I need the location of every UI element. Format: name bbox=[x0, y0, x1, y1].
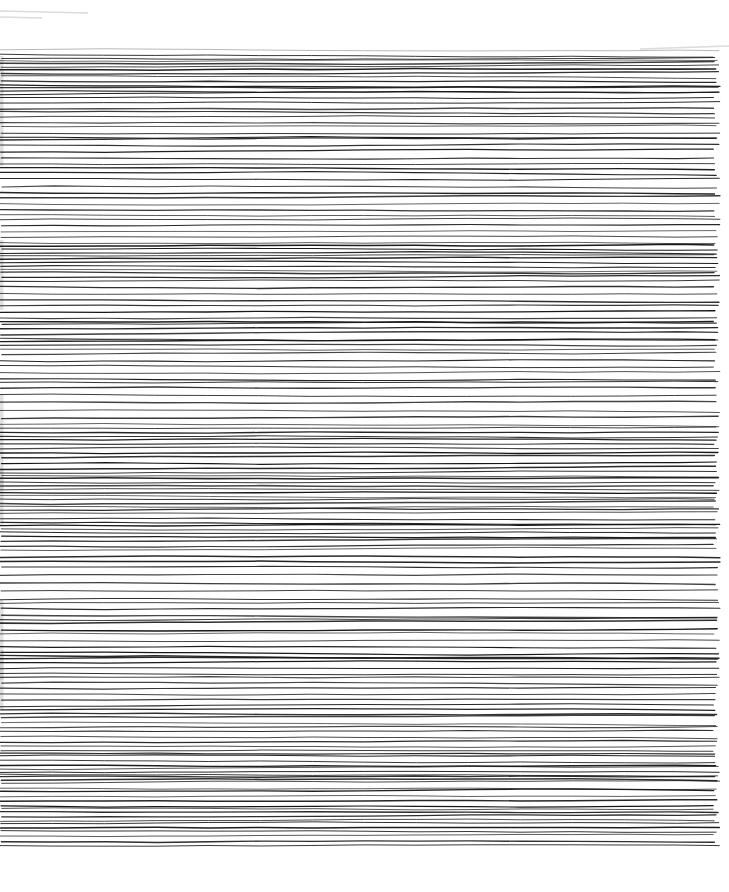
ink-line bbox=[0, 499, 714, 500]
ink-line bbox=[1, 539, 716, 542]
ink-line bbox=[0, 677, 719, 678]
ink-line bbox=[1, 819, 715, 821]
ink-line bbox=[1, 76, 715, 79]
ink-line bbox=[0, 108, 714, 110]
ink-line bbox=[1, 518, 715, 520]
ink-line bbox=[2, 815, 716, 817]
ink-line bbox=[0, 97, 714, 98]
ink-line bbox=[1, 387, 716, 388]
ink-line bbox=[0, 242, 715, 243]
ink-line bbox=[1, 236, 717, 238]
ink-line bbox=[0, 492, 716, 493]
ink-line bbox=[0, 532, 715, 534]
ink-line bbox=[0, 60, 717, 62]
ink-line bbox=[2, 276, 720, 278]
ink-line bbox=[1, 760, 715, 763]
ink-line bbox=[0, 845, 719, 846]
ink-line bbox=[0, 482, 715, 483]
ink-line bbox=[0, 432, 718, 433]
ink-line bbox=[0, 800, 717, 802]
ink-line bbox=[2, 566, 718, 568]
ink-line bbox=[0, 427, 716, 429]
ink-line bbox=[0, 789, 713, 792]
ink-line bbox=[0, 704, 714, 707]
ink-line bbox=[0, 178, 719, 180]
ink-line bbox=[0, 261, 718, 263]
ink-line bbox=[2, 248, 717, 250]
ink-line bbox=[0, 360, 715, 362]
scan-artifact-streak bbox=[0, 17, 42, 18]
ink-line bbox=[0, 410, 719, 413]
ink-line bbox=[0, 556, 720, 558]
ink-line bbox=[0, 478, 718, 479]
ink-line bbox=[0, 447, 718, 449]
ink-line bbox=[1, 806, 713, 807]
ink-line bbox=[0, 740, 717, 742]
ink-line bbox=[0, 471, 716, 473]
ink-line bbox=[1, 495, 716, 497]
ink-line bbox=[1, 841, 714, 843]
ink-line bbox=[0, 54, 713, 57]
ink-line bbox=[0, 693, 715, 695]
ink-line bbox=[1, 779, 717, 781]
ink-lines-group bbox=[0, 49, 720, 846]
ink-line bbox=[2, 125, 716, 127]
ink-line bbox=[0, 365, 713, 367]
ink-line bbox=[0, 293, 717, 294]
ink-line bbox=[2, 58, 715, 60]
ink-line bbox=[0, 812, 718, 813]
ink-line bbox=[2, 416, 719, 418]
ink-line bbox=[0, 196, 720, 198]
ink-line bbox=[1, 72, 718, 74]
ink-line bbox=[0, 111, 714, 113]
ink-line bbox=[0, 640, 719, 642]
ink-line bbox=[1, 736, 717, 739]
ink-line bbox=[0, 755, 715, 756]
ink-line bbox=[0, 661, 716, 663]
ink-line bbox=[0, 381, 718, 383]
ink-line bbox=[0, 280, 719, 282]
ink-line bbox=[0, 598, 718, 600]
ink-line bbox=[0, 795, 715, 796]
ink-line bbox=[1, 485, 714, 486]
ink-line bbox=[0, 102, 720, 104]
ink-line bbox=[0, 49, 719, 51]
ink-line bbox=[0, 172, 716, 176]
ink-line bbox=[0, 244, 714, 246]
ink-line bbox=[0, 379, 715, 381]
ink-line bbox=[1, 608, 720, 610]
ink-line bbox=[0, 87, 718, 88]
ink-line bbox=[0, 122, 719, 123]
ink-line bbox=[0, 668, 719, 669]
ink-line bbox=[0, 512, 717, 514]
ink-line bbox=[1, 144, 719, 146]
ink-line bbox=[2, 615, 717, 618]
ink-line bbox=[0, 602, 718, 603]
ink-line bbox=[1, 528, 718, 530]
ink-line bbox=[1, 133, 720, 134]
ink-line bbox=[0, 300, 719, 302]
ink-line bbox=[0, 317, 716, 318]
ink-line bbox=[1, 652, 719, 655]
ink-line bbox=[1, 547, 716, 550]
ink-line bbox=[1, 65, 718, 67]
ink-line bbox=[0, 257, 717, 259]
ink-line bbox=[2, 682, 717, 685]
ink-line bbox=[2, 186, 717, 188]
ink-line bbox=[0, 574, 717, 575]
ink-line bbox=[0, 646, 716, 648]
ink-line bbox=[1, 750, 713, 751]
ink-line bbox=[0, 766, 718, 769]
ink-line bbox=[2, 808, 713, 810]
ink-line bbox=[0, 210, 714, 212]
ink-line bbox=[0, 443, 714, 444]
ink-line bbox=[0, 62, 714, 65]
ink-line bbox=[1, 158, 713, 159]
ink-line bbox=[2, 629, 718, 631]
ink-line bbox=[0, 501, 715, 504]
ink-line bbox=[0, 168, 714, 170]
ink-line bbox=[0, 617, 717, 620]
ink-line bbox=[0, 452, 718, 453]
ink-line bbox=[1, 699, 715, 700]
ink-line bbox=[0, 583, 715, 585]
